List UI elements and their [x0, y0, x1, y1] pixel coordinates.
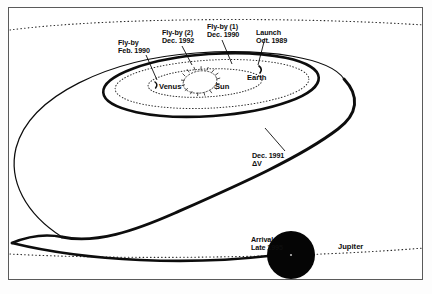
earth-marker	[259, 66, 261, 73]
annotation-launch-oct-1989: Launch Oct. 1989	[256, 29, 287, 46]
trajectory-canvas	[0, 0, 432, 294]
annotation-arrival-late-1995: Arrival Late 1995	[251, 236, 283, 253]
trajectory-figure: Fly-by Feb. 1990 Fly-by (2) Dec. 1992 Fl…	[0, 0, 432, 294]
leader-dec-1991-dv	[265, 128, 285, 151]
jupiter-transfer-ellipse-thick-half	[62, 79, 355, 239]
annotation-launch-oct-1989-line2: Oct. 1989	[256, 37, 287, 45]
annotation-arrival-line2: Late 1995	[251, 244, 283, 252]
body-label-jupiter: Jupiter	[338, 242, 363, 251]
annotation-dec-1991-delta-v: ΔV	[252, 160, 284, 168]
inner-cruise-loop	[101, 47, 321, 124]
annotation-dec-1991-dv: Dec. 1991 ΔV	[252, 152, 284, 169]
approach-to-jupiter	[12, 243, 268, 261]
body-label-sun: Sun	[215, 82, 229, 91]
annotation-flyby-feb-1990-line2: Feb. 1990	[118, 47, 150, 55]
transfer-lower-left-join	[12, 236, 62, 243]
jupiter-highlight	[290, 254, 292, 256]
annotation-flyby-2-dec-1992: Fly-by (2) Dec. 1992	[162, 29, 194, 46]
body-label-venus: Venus	[159, 82, 181, 91]
annotation-flyby-feb-1990: Fly-by Feb. 1990	[118, 39, 150, 56]
annotation-flyby-1-dec-1990-line2: Dec. 1990	[207, 31, 239, 39]
body-label-earth: Earth	[247, 73, 266, 82]
jupiter-transfer-ellipse-thin-half	[14, 52, 344, 237]
annotation-flyby-2-dec-1992-line2: Dec. 1992	[162, 37, 194, 45]
annotation-flyby-1-dec-1990: Fly-by (1) Dec. 1990	[207, 23, 239, 40]
venus-marker	[155, 82, 157, 88]
